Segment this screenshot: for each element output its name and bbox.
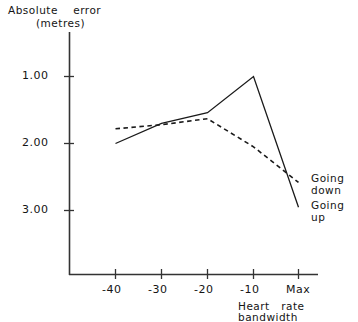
x-tick-label-minus10: -10 [240,283,259,296]
legend-going-down-line-2: down [311,184,341,196]
legend-label-going-down: Goingdown [311,172,344,196]
chart-title-line-2: (metres) [36,17,85,29]
x-tick-label-minus40: -40 [102,283,121,296]
chart-figure: Absolute error (metres) 1.00 2.00 3.00 -… [0,0,358,322]
series-line-going-up [116,77,299,208]
x-axis-title-line-2: bandwidth [238,311,298,322]
x-tick-label-max: Max [286,283,310,296]
y-tick-label-3: 3.00 [22,203,49,216]
x-tick-label-minus30: -30 [148,283,167,296]
legend-going-up-line-2: up [311,211,325,223]
y-tick-label-2: 2.00 [22,136,49,149]
chart-plot-area [0,0,358,322]
legend-going-down-line-1: Going [311,172,344,184]
y-tick-label-1: 1.00 [22,69,49,82]
legend-label-going-up: Goingup [311,199,344,223]
x-tick-label-minus20: -20 [194,283,213,296]
chart-title-line-1: Absolute error [8,4,101,16]
legend-going-up-line-1: Going [311,199,344,211]
